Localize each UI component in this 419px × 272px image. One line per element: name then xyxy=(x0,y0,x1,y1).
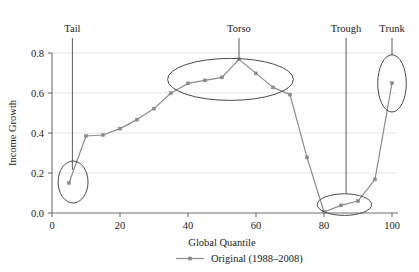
data-point-marker xyxy=(391,82,394,85)
y-tick-label: 0.4 xyxy=(31,128,45,139)
data-point-marker xyxy=(68,182,71,185)
legend-entry-label: Original (1988–2008) xyxy=(211,253,303,265)
data-point-marker xyxy=(289,93,292,96)
data-point-marker xyxy=(306,156,309,159)
annotation-label: Trough xyxy=(331,23,362,34)
series-line xyxy=(69,59,392,212)
x-tick-label: 40 xyxy=(183,220,194,231)
data-point-marker xyxy=(204,79,207,82)
x-tick-label: 60 xyxy=(251,220,262,231)
annotation-label: Tail xyxy=(64,23,80,34)
data-point-marker xyxy=(170,92,173,95)
tick-labels: 0.00.20.40.60.8020406080100 xyxy=(31,48,400,231)
annotation-label: Torso xyxy=(227,23,251,34)
legend-marker-swatch xyxy=(188,257,192,261)
x-tick-label: 0 xyxy=(49,220,54,231)
income-growth-chart: 0.00.20.40.60.8020406080100 TailTorsoTro… xyxy=(0,0,419,272)
y-tick-label: 0.6 xyxy=(31,88,44,99)
plot-area: 0.00.20.40.60.8020406080100 TailTorsoTro… xyxy=(0,0,419,272)
x-axis-title: Global Quantile xyxy=(188,237,256,248)
axis-titles: Global QuantileIncome Growth xyxy=(7,99,256,248)
data-point-marker xyxy=(255,72,258,75)
data-point-marker xyxy=(153,107,156,110)
x-tick-label: 80 xyxy=(319,220,330,231)
annotation-ellipse xyxy=(58,161,88,203)
y-tick-label: 0.2 xyxy=(31,168,44,179)
annotation-label: Trunk xyxy=(379,23,405,34)
data-point-marker xyxy=(272,86,275,89)
y-axis-title: Income Growth xyxy=(7,99,18,166)
x-tick-label: 100 xyxy=(384,220,400,231)
data-point-marker xyxy=(136,118,139,121)
data-point-marker xyxy=(187,82,190,85)
data-point-marker xyxy=(374,178,377,181)
data-point-marker xyxy=(357,200,360,203)
chart-legend: Original (1988–2008) xyxy=(176,253,303,265)
annotations: TailTorsoTroughTrunk xyxy=(58,23,406,215)
data-point-marker xyxy=(119,127,122,130)
y-tick-label: 0.0 xyxy=(31,208,44,219)
data-point-marker xyxy=(340,204,343,207)
data-point-marker xyxy=(102,134,105,137)
data-point-marker xyxy=(221,76,224,79)
x-tick-label: 20 xyxy=(115,220,126,231)
annotation-ellipse xyxy=(168,58,294,100)
data-point-marker xyxy=(85,135,88,138)
y-tick-label: 0.8 xyxy=(31,48,44,59)
data-series xyxy=(68,58,394,214)
